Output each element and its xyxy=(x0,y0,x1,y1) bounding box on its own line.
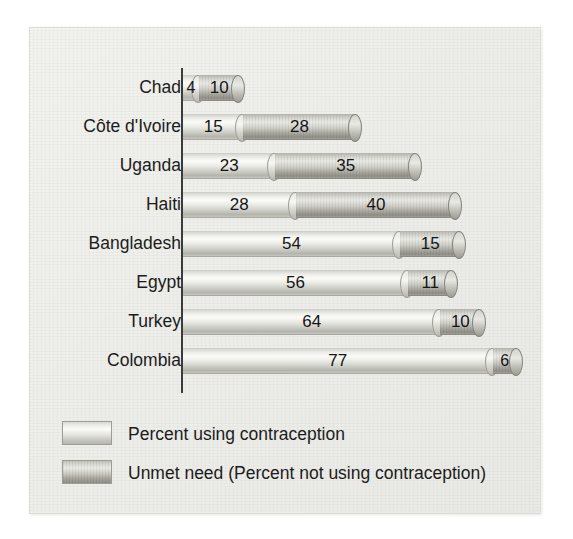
bar-row: Chad410 xyxy=(29,68,541,107)
bar-value-label: 4 xyxy=(183,75,199,101)
legend-swatch-percent-using-icon xyxy=(62,421,112,445)
bar-segment-percent-using: 28 xyxy=(183,192,302,218)
category-label: Colombia xyxy=(0,341,181,380)
bar-value-label: 56 xyxy=(183,270,408,296)
legend-label: Percent using contraception xyxy=(128,415,345,454)
bar-row: Turkey6410 xyxy=(29,302,541,341)
bar-segment-unmet-need: 15 xyxy=(400,231,466,257)
category-label: Côte d'Ivoire xyxy=(0,107,181,146)
legend-item: Percent using contraception xyxy=(62,415,532,454)
bar-segment-percent-using: 64 xyxy=(183,309,446,335)
bar-row: Colombia776 xyxy=(29,341,541,380)
category-label: Haiti xyxy=(0,185,181,224)
bar-row: Uganda2335 xyxy=(29,146,541,185)
bar-segment-percent-using: 77 xyxy=(183,348,499,374)
bar-value-label: 54 xyxy=(183,231,400,257)
bar-value-label: 10 xyxy=(199,75,239,101)
bar-segment-percent-using: 56 xyxy=(183,270,414,296)
category-label: Bangladesh xyxy=(0,224,181,263)
bar-segment-percent-using: 15 xyxy=(183,114,249,140)
legend-item: Unmet need (Percent not using contracept… xyxy=(62,454,532,493)
bar-row: Bangladesh5415 xyxy=(29,224,541,263)
bar-segment-percent-using: 23 xyxy=(183,153,281,179)
bar-value-label: 6 xyxy=(493,348,517,374)
bar-value-label: 23 xyxy=(183,153,275,179)
bar-row: Egypt5611 xyxy=(29,263,541,302)
bar-row: Haiti2840 xyxy=(29,185,541,224)
legend-label: Unmet need (Percent not using contracept… xyxy=(128,454,486,493)
chart-panel: Chad410Côte d'Ivoire1528Uganda2335Haiti2… xyxy=(29,27,541,514)
category-label: Uganda xyxy=(0,146,181,185)
bar-value-label: 40 xyxy=(296,192,457,218)
legend-swatch-unmet-need-icon xyxy=(62,460,112,484)
bar-value-label: 77 xyxy=(183,348,493,374)
bar-value-label: 64 xyxy=(183,309,440,335)
bar-value-label: 28 xyxy=(183,192,296,218)
bar-segment-unmet-need: 10 xyxy=(440,309,486,335)
bar-segment-percent-using: 54 xyxy=(183,231,406,257)
bar-segment-unmet-need: 11 xyxy=(408,270,458,296)
bar-segment-unmet-need: 6 xyxy=(493,348,523,374)
bar-value-label: 35 xyxy=(275,153,416,179)
bar-segment-unmet-need: 40 xyxy=(296,192,463,218)
bar-value-label: 15 xyxy=(400,231,460,257)
category-label: Turkey xyxy=(0,302,181,341)
bar-value-label: 10 xyxy=(440,309,480,335)
chart-legend: Percent using contraception Unmet need (… xyxy=(62,415,532,493)
category-label: Egypt xyxy=(0,263,181,302)
bar-segment-unmet-need: 10 xyxy=(199,75,245,101)
bar-row: Côte d'Ivoire1528 xyxy=(29,107,541,146)
bar-value-label: 15 xyxy=(183,114,243,140)
category-label: Chad xyxy=(0,68,181,107)
chart-figure: Chad410Côte d'Ivoire1528Uganda2335Haiti2… xyxy=(0,0,573,539)
bar-value-label: 28 xyxy=(243,114,356,140)
bar-value-label: 11 xyxy=(408,270,452,296)
bar-segment-unmet-need: 35 xyxy=(275,153,422,179)
bar-segment-unmet-need: 28 xyxy=(243,114,362,140)
